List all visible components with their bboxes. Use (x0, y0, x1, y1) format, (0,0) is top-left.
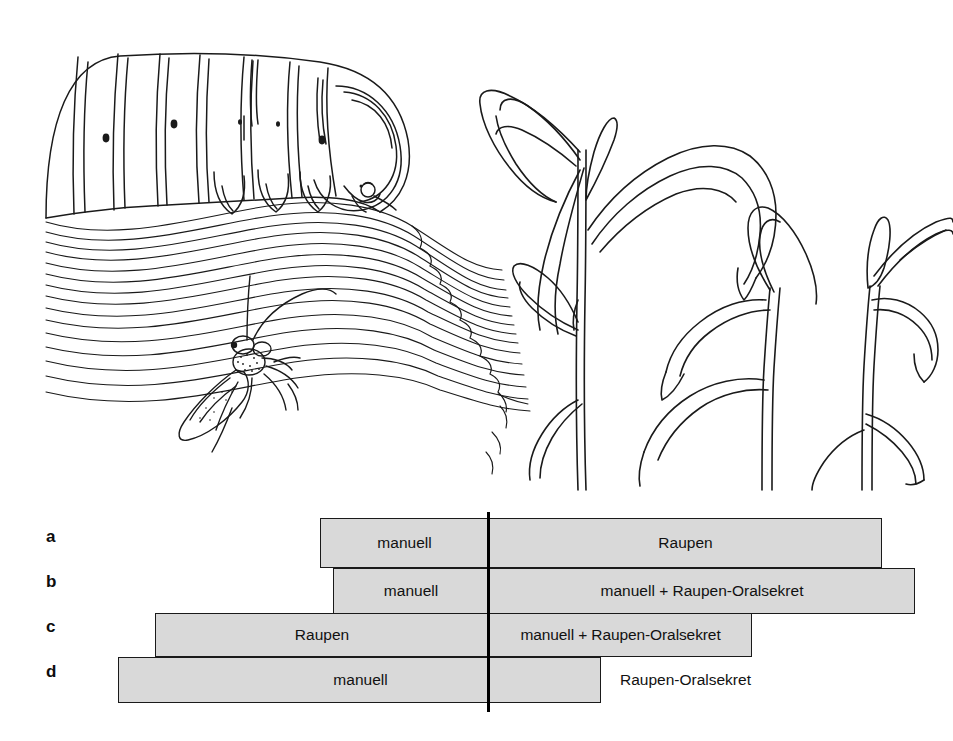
treatment-divider-line (487, 512, 490, 712)
row-label-c: c (46, 618, 55, 635)
treatment-bar-d: manuell (118, 657, 601, 703)
treatment-segment-a-1: manuell (321, 519, 488, 567)
treatment-segment-d-1: manuell (119, 658, 602, 702)
treatment-segment-a-2: Raupen (488, 519, 883, 567)
figure-panel: a b c d manuell Raupen manuell manuell +… (0, 0, 953, 741)
illustration-svg (0, 0, 953, 492)
treatment-segment-b-1: manuell (334, 569, 488, 613)
row-label-b: b (46, 573, 56, 590)
illustration-line-drawing (0, 0, 953, 492)
treatment-timeline-diagram: a b c d manuell Raupen manuell manuell +… (0, 492, 953, 741)
treatment-segment-b-2: manuell + Raupen-Oralsekret (488, 569, 916, 613)
treatment-segment-c-2: manuell + Raupen-Oralsekret (488, 614, 753, 656)
row-label-a: a (46, 528, 55, 545)
treatment-label-d-outside: Raupen-Oralsekret (620, 657, 751, 703)
illustration-background (0, 0, 953, 492)
row-label-d: d (46, 663, 56, 680)
treatment-segment-c-1: Raupen (156, 614, 488, 656)
treatment-bar-a: manuell Raupen (320, 518, 882, 568)
treatment-bar-c: Raupen manuell + Raupen-Oralsekret (155, 613, 752, 657)
treatment-bar-b: manuell manuell + Raupen-Oralsekret (333, 568, 915, 614)
